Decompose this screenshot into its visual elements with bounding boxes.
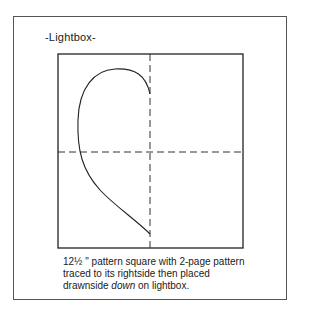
caption-line-1: 12½ " pattern square with 2-page pattern xyxy=(63,256,263,268)
figure-caption: 12½ " pattern square with 2-page pattern… xyxy=(63,256,263,292)
pattern-square xyxy=(58,54,243,248)
caption-line-3-prefix: drawnside xyxy=(63,280,111,291)
caption-emphasis: down xyxy=(111,280,135,291)
half-heart-curve xyxy=(78,69,150,234)
caption-line-3: drawnside down on lightbox. xyxy=(63,280,263,292)
caption-line-3-suffix: on lightbox. xyxy=(135,280,189,291)
caption-line-2: traced to its rightside then placed xyxy=(63,268,263,280)
